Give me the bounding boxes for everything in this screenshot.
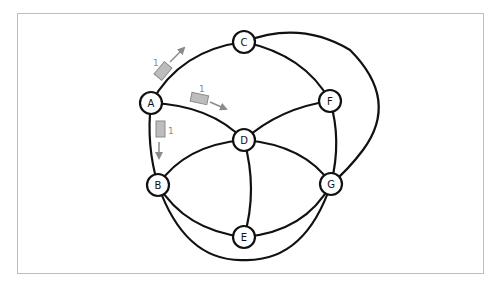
node-g: G [320, 173, 342, 195]
node-g-label: G [327, 179, 335, 190]
network-graph: 1 1 1 A B C D E F G [0, 0, 502, 285]
node-f: F [319, 90, 341, 112]
edge-a-b [150, 103, 158, 185]
edge-f-g [330, 101, 336, 184]
packet-a-b: 1 [156, 121, 174, 158]
node-c-label: C [241, 37, 248, 48]
node-b-label: B [155, 180, 162, 191]
packet-a-d: 1 [190, 84, 226, 109]
node-b: B [147, 174, 169, 196]
node-d-label: D [240, 135, 248, 146]
edge-d-b [158, 140, 244, 185]
node-e-label: E [241, 232, 247, 243]
packet-a-c-label: 1 [153, 58, 159, 68]
edge-f-d [244, 101, 330, 140]
edges [150, 33, 379, 260]
edge-e-g [244, 184, 331, 237]
edge-b-e [158, 185, 244, 237]
edge-d-g [244, 140, 331, 184]
packet-a-c: 1 [153, 48, 184, 80]
edge-c-g [244, 33, 379, 184]
edge-c-f [244, 42, 330, 101]
node-e: E [233, 226, 255, 248]
packet-a-b-label: 1 [168, 126, 174, 136]
packet-a-d-label: 1 [199, 84, 205, 94]
node-a: A [140, 92, 162, 114]
node-f-label: F [327, 96, 333, 107]
node-a-label: A [148, 98, 155, 109]
node-c: C [233, 31, 255, 53]
edge-d-e [244, 140, 251, 237]
node-d: D [233, 129, 255, 151]
